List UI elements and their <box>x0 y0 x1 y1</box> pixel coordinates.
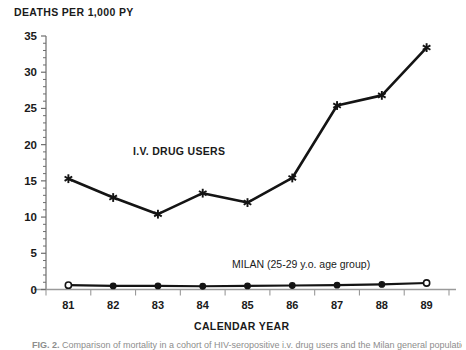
data-point-marker <box>289 283 295 289</box>
annotation-iv-drug-users: I.V. DRUG USERS <box>133 145 225 157</box>
y-tick-label: 35 <box>24 30 37 42</box>
data-point-marker <box>424 280 430 286</box>
y-tick-label: 25 <box>24 102 37 114</box>
figure-caption-text: Comparison of mortality in a cohort of H… <box>62 340 462 350</box>
data-point-marker <box>110 283 116 289</box>
x-tick-label: 84 <box>197 299 210 311</box>
line-chart-plot: 05101520253035 818283848586878889 I.V. D… <box>0 0 466 330</box>
figure-caption-label: FIG. 2. <box>32 340 60 350</box>
x-axis-ticks <box>46 290 449 296</box>
y-tick-label: 30 <box>24 66 37 78</box>
y-tick-label: 0 <box>31 284 37 296</box>
y-tick-label: 5 <box>31 247 38 259</box>
x-tick-label: 81 <box>62 299 74 311</box>
y-axis-tick-labels: 05101520253035 <box>24 30 37 296</box>
data-point-marker <box>200 283 206 289</box>
x-tick-label: 86 <box>286 299 298 311</box>
x-axis-title: CALENDAR YEAR <box>194 320 289 332</box>
x-tick-label: 85 <box>241 299 253 311</box>
data-point-marker <box>245 283 251 289</box>
data-point-marker <box>155 283 161 289</box>
y-tick-label: 15 <box>24 175 37 187</box>
data-point-marker <box>334 282 340 288</box>
series-markers-iv-drug-users <box>65 43 431 218</box>
figure-caption: FIG. 2. Comparison of mortality in a coh… <box>32 340 462 350</box>
x-tick-label: 87 <box>331 299 343 311</box>
x-tick-label: 88 <box>376 299 388 311</box>
y-axis-major-ticks <box>41 36 46 290</box>
y-tick-label: 20 <box>24 139 37 151</box>
x-tick-label: 83 <box>152 299 164 311</box>
x-axis-tick-labels: 818283848586878889 <box>62 299 432 311</box>
series-line-iv-drug-users <box>68 48 426 215</box>
data-point-marker <box>379 282 385 288</box>
y-tick-label: 10 <box>24 211 37 223</box>
annotation-milan: MILAN (25-29 y.o. age group) <box>232 258 370 270</box>
x-tick-label: 89 <box>420 299 432 311</box>
data-point-marker <box>65 282 71 288</box>
x-tick-label: 82 <box>107 299 119 311</box>
